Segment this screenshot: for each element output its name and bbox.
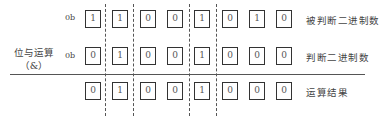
dashed-separator-4: [216, 4, 217, 116]
bit-box: 0: [85, 82, 101, 100]
binary-prefix: 0b: [65, 51, 75, 60]
bit-box: 1: [194, 82, 210, 100]
bit-box: 0: [140, 10, 156, 28]
row-label-operand-a: 被判断二进制数: [306, 13, 380, 27]
bit-box: 0: [249, 47, 265, 65]
dashed-separator-1: [105, 4, 106, 116]
bit-box: 0: [276, 10, 292, 28]
result-divider-line: [10, 74, 365, 75]
bit-box: 0: [276, 82, 292, 100]
bit-box: 0: [140, 82, 156, 100]
bit-box: 0: [276, 47, 292, 65]
row-label-operand-b: 判断二进制数: [306, 50, 369, 64]
operation-label: 位与运算 （&）: [6, 46, 62, 72]
bit-box: 0: [249, 82, 265, 100]
operation-symbol: （&）: [6, 59, 62, 72]
dashed-separator-2: [133, 4, 134, 116]
bit-box: 0: [222, 10, 238, 28]
row-label-result: 运算结果: [306, 85, 348, 99]
bit-box: 0: [167, 82, 183, 100]
dashed-separator-3: [189, 4, 190, 116]
bit-box: 1: [112, 47, 128, 65]
operation-name: 位与运算: [6, 46, 62, 59]
bit-box: 1: [194, 10, 210, 28]
bit-box: 0: [167, 47, 183, 65]
bit-box: 0: [85, 47, 101, 65]
bit-box: 0: [222, 47, 238, 65]
bit-box: 0: [222, 82, 238, 100]
bit-box: 0: [167, 10, 183, 28]
bit-box: 1: [194, 47, 210, 65]
bit-box: 1: [112, 82, 128, 100]
bit-box: 1: [112, 10, 128, 28]
bit-box: 0: [140, 47, 156, 65]
bit-box: 1: [249, 10, 265, 28]
bit-box: 1: [85, 10, 101, 28]
binary-prefix: 0b: [65, 13, 75, 22]
